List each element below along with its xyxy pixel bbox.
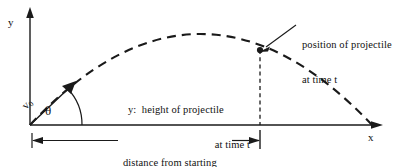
position-annotation-line2: at time t: [302, 74, 392, 86]
height-annotation-line1: y: height of projectile: [128, 104, 250, 116]
x-axis-label: x: [368, 131, 374, 143]
position-annotation-line1: position of projectile: [302, 39, 392, 51]
x-axis-arrowhead: [371, 121, 383, 129]
initial-velocity-vector: [30, 81, 76, 125]
y-axis-label: y: [8, 16, 14, 28]
projectile-motion-figure: y x v0 θ position of projectile at time …: [0, 0, 400, 167]
projectile-point-marker: [257, 47, 263, 53]
y-axis-arrowhead: [26, 7, 34, 18]
launch-angle-label: θ: [45, 104, 51, 119]
position-annotation: position of projectile at time t: [302, 15, 392, 109]
distance-annotation-line1: distance from starting: [123, 157, 217, 168]
distance-annotation: distance from starting point at time t: …: [123, 133, 217, 167]
position-leader-line: [259, 25, 296, 52]
angle-arc: [68, 89, 83, 126]
